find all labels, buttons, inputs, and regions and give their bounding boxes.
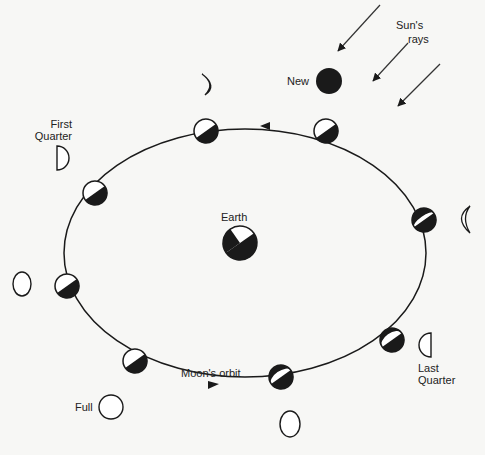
orbit-moon-icon — [407, 203, 440, 236]
earth-label: Earth — [221, 211, 247, 224]
earth-icon — [216, 219, 263, 266]
orbit-moon-icon — [264, 360, 297, 393]
waxing-crescent-icon — [202, 74, 211, 95]
orbit-moon-icon — [78, 176, 111, 209]
sun-ray-arrow-icon — [338, 5, 380, 51]
moons-orbit-label: Moon's orbit — [181, 367, 241, 380]
first-quarter-icon — [57, 146, 69, 170]
diagram-canvas — [0, 0, 485, 455]
orbit-moon-icon — [118, 344, 151, 377]
orbit-moon-icon — [189, 114, 222, 147]
sun-ray-arrow-icon — [398, 64, 440, 106]
new-label: New — [287, 75, 309, 88]
sun-rays — [338, 5, 440, 106]
new-moon-icon — [316, 68, 342, 94]
first-quarter-label: Quarter — [20, 130, 72, 143]
orbit-moon-icon — [50, 269, 83, 302]
waxing-gibbous-icon — [13, 272, 31, 296]
last-quarter-icon — [419, 333, 431, 357]
sun-label: Sun's — [396, 19, 423, 32]
waning-crescent-icon — [462, 206, 471, 233]
full-moon-icon — [99, 395, 123, 419]
orbit-moon-icon — [309, 114, 342, 147]
waning-gibbous-icon — [280, 411, 300, 437]
orbit-direction-arrow-icon — [208, 381, 219, 389]
orbit-moon-icon — [375, 323, 408, 356]
last-quarter-label: Quarter — [418, 374, 455, 387]
sun-ray-arrow-icon — [373, 43, 408, 81]
full-label: Full — [75, 401, 93, 414]
rays-label: rays — [408, 33, 429, 46]
moon-phases-diagram: Sun's rays New First Quarter Earth Moon'… — [0, 0, 485, 455]
